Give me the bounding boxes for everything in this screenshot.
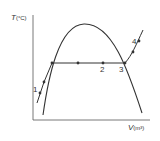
point-1-marker: [39, 92, 42, 95]
process-line-vapor: [125, 30, 143, 63]
tv-diagram: T(°C) V(m³) 1 2 3 4: [0, 0, 160, 141]
x-axis-label: V(m³): [128, 123, 144, 132]
saturated-liquid-point: [51, 62, 54, 65]
arrow-marker: [132, 51, 135, 54]
point-1-label: 1: [33, 85, 38, 94]
point-2-label: 2: [100, 65, 105, 74]
arrow-marker: [43, 81, 46, 84]
point-2-marker: [102, 62, 105, 65]
point-3-label: 3: [119, 65, 124, 74]
saturation-dome: [43, 24, 142, 115]
y-axis-label: T(°C): [11, 13, 27, 22]
point-4-label: 4: [132, 37, 137, 46]
point-3-marker: [124, 62, 127, 65]
point-4-marker: [138, 40, 141, 43]
mixture-point: [77, 62, 80, 65]
